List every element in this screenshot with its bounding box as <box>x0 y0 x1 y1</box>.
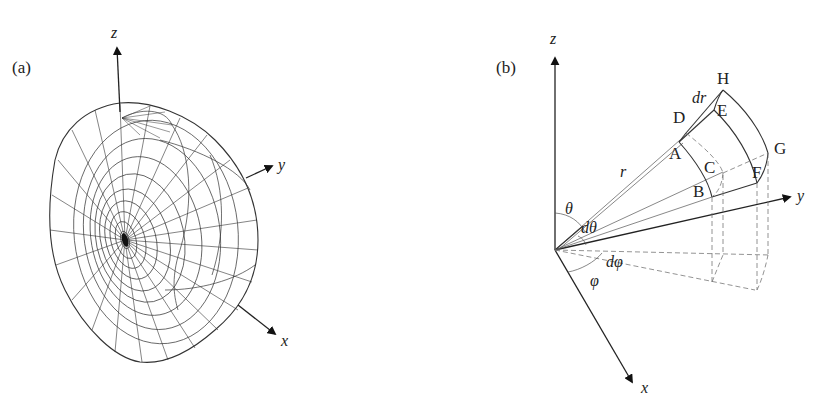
dtheta-label: dθ <box>581 219 597 236</box>
figure-canvas: (a) <box>0 0 823 404</box>
x-axis-a <box>238 305 275 334</box>
vertex-D: D <box>673 108 685 127</box>
y-label-a: y <box>276 156 286 174</box>
y-axis-a <box>246 166 272 178</box>
dr-label: dr <box>692 89 707 106</box>
panel-b: (b) z y x <box>496 30 805 396</box>
vertex-F: F <box>752 163 761 182</box>
vertex-C: C <box>704 158 715 177</box>
panel-b-label: (b) <box>496 58 516 77</box>
z-axis-a <box>117 48 120 112</box>
hidden-edges <box>555 133 770 290</box>
z-label-b: z <box>549 30 557 47</box>
y-label-b: y <box>795 187 805 205</box>
x-label-b: x <box>640 379 648 396</box>
vertex-H: H <box>717 69 729 88</box>
panel-a-label: (a) <box>12 58 31 77</box>
dphi-label: dφ <box>606 253 623 271</box>
vertex-E: E <box>717 101 727 120</box>
theta-label: θ <box>565 200 573 217</box>
panel-a: (a) <box>12 24 288 362</box>
vertex-B: B <box>693 182 704 201</box>
z-label-a: z <box>110 24 118 41</box>
vertex-A: A <box>669 144 682 163</box>
wireframe-lobe <box>50 103 258 363</box>
x-label-a: x <box>280 332 288 349</box>
vertex-G: G <box>774 139 786 158</box>
r-label: r <box>620 163 627 180</box>
phi-arc <box>568 253 602 272</box>
phi-label: φ <box>590 272 599 290</box>
